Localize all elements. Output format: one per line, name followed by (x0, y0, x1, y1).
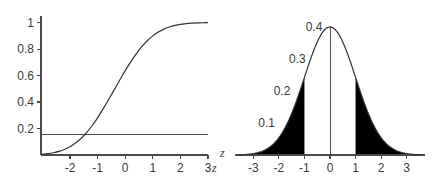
x-tick-label: -2 (65, 161, 76, 175)
x-tick-label: -2 (274, 161, 285, 175)
chart-panel-right: -3-2-101230.10.20.30.4z (218, 0, 436, 185)
x-tick-label: 2 (378, 161, 385, 175)
x-tick-label: 0 (122, 161, 129, 175)
y-tick-label: 0.6 (17, 69, 34, 83)
x-tick-label: 2 (177, 161, 184, 175)
x-axis-title-z: z (219, 146, 225, 160)
x-tick-label: 0 (327, 161, 334, 175)
y-tick-label: 1 (27, 16, 34, 30)
x-axis-title-z: z (211, 161, 217, 175)
y-tick-label: 0.2 (17, 122, 34, 136)
x-tick-label: 1 (352, 161, 359, 175)
x-tick-label: -1 (92, 161, 103, 175)
right-tail-shaded-region (356, 77, 422, 155)
y-value-label: 0.3 (289, 52, 306, 66)
x-tick-label: -1 (299, 161, 310, 175)
cumulative-normal-chart: -2-101230.20.40.60.81z (0, 0, 218, 185)
y-value-label: 0.4 (306, 20, 323, 34)
chart-panel-left: -2-101230.20.40.60.81z (0, 0, 218, 185)
y-value-label: 0.1 (258, 116, 275, 130)
y-tick-label: 0.8 (17, 42, 34, 56)
x-tick-label: -3 (248, 161, 259, 175)
figure-container: -2-101230.20.40.60.81z -3-2-101230.10.20… (0, 0, 436, 185)
y-value-label: 0.2 (274, 84, 291, 98)
normal-density-chart: -3-2-101230.10.20.30.4z (218, 0, 436, 185)
y-tick-label: 0.4 (17, 95, 34, 109)
x-tick-label: 3 (205, 161, 212, 175)
x-tick-label: 1 (149, 161, 156, 175)
x-tick-label: 3 (403, 161, 410, 175)
